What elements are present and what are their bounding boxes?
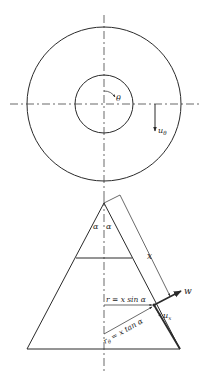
theta-arc <box>104 91 115 97</box>
theta-label: θ <box>116 94 121 103</box>
u-theta-label: uθ <box>158 126 167 136</box>
cone-flow-diagram: θ uθ α α x w r = x sin α rθ = x tan α ux <box>0 0 203 389</box>
top-view: θ uθ <box>10 15 200 198</box>
w-arrow <box>154 291 181 305</box>
surface-point <box>152 303 155 306</box>
cone-right-edge <box>104 203 180 349</box>
r-label: r = x sin α <box>106 295 146 304</box>
x-extension-top <box>104 195 120 203</box>
x-label: x <box>147 251 152 261</box>
alpha-left-label: α <box>93 222 99 231</box>
side-view: α α x w r = x sin α rθ = x tan α ux <box>27 195 192 373</box>
alpha-right-label: α <box>106 222 112 231</box>
w-label: w <box>184 286 192 296</box>
u-x-label: ux <box>163 311 172 321</box>
